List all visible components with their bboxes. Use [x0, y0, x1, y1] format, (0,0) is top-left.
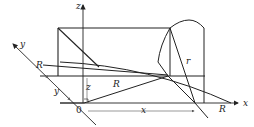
z-dimension-label: z	[86, 83, 91, 92]
x-dimension-label: x	[141, 106, 146, 115]
r-middle-label: R	[113, 80, 120, 89]
x-axis-label: x	[243, 99, 248, 108]
figure: z y x 0 R R R r y z x	[0, 0, 254, 127]
r-left-label: R	[36, 61, 43, 70]
r-xaxis-label: R	[219, 105, 226, 114]
small-r-label: r	[186, 57, 190, 66]
y-dimension-label: y	[54, 87, 59, 96]
origin-label: 0	[76, 106, 82, 115]
y-axis-label: y	[20, 40, 25, 49]
z-axis-label: z	[76, 2, 81, 11]
